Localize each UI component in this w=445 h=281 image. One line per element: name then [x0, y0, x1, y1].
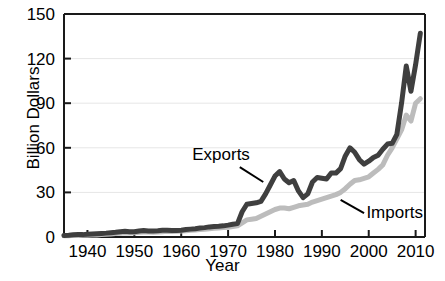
- y-tick-label: 0: [46, 228, 55, 247]
- annotation-label-exports: Exports: [192, 145, 250, 164]
- gridlines-group: [64, 14, 425, 192]
- x-axis-title: Year: [0, 256, 445, 276]
- y-tick-label: 150: [27, 5, 55, 24]
- annotation-leader-imports: [341, 200, 364, 213]
- chart-container: 0306090120150 19401950196019701980199020…: [0, 0, 445, 281]
- y-axis-ticks: [64, 14, 71, 237]
- annotation-label-imports: Imports: [366, 203, 423, 222]
- y-axis-title: Billion Dollars: [24, 38, 44, 198]
- line-chart: 0306090120150 19401950196019701980199020…: [0, 0, 445, 281]
- annotation-leader-exports: [240, 167, 263, 182]
